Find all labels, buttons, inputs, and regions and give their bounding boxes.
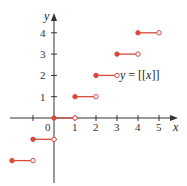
open-point-icon bbox=[52, 137, 56, 141]
open-point-icon bbox=[94, 95, 98, 99]
y-tick-label: 3 bbox=[40, 48, 46, 60]
origin-label: 0 bbox=[45, 121, 51, 133]
closed-point-icon bbox=[136, 31, 140, 35]
open-point-icon bbox=[157, 31, 161, 35]
x-tick-label: 4 bbox=[135, 121, 141, 133]
step-segments bbox=[10, 31, 161, 163]
step-function-graph: 12345 1234 x y 0 y = [[x]] bbox=[0, 0, 187, 186]
function-label: y = [[x]] bbox=[119, 68, 159, 82]
open-point-icon bbox=[115, 73, 119, 77]
closed-point-icon bbox=[31, 137, 35, 141]
open-point-icon bbox=[73, 116, 77, 120]
x-tick-label: 2 bbox=[93, 121, 99, 133]
closed-point-icon bbox=[52, 116, 56, 120]
y-tick-label: 2 bbox=[40, 69, 46, 81]
x-tick-label: 3 bbox=[114, 121, 120, 133]
y-tick-label: 1 bbox=[40, 91, 46, 103]
x-tick-label: 5 bbox=[156, 121, 162, 133]
y-axis-arrow-icon bbox=[51, 13, 57, 21]
open-point-icon bbox=[31, 158, 35, 162]
closed-point-icon bbox=[10, 158, 14, 162]
open-point-icon bbox=[136, 52, 140, 56]
closed-point-icon bbox=[94, 73, 98, 77]
closed-point-icon bbox=[73, 95, 77, 99]
y-tick-label: 4 bbox=[40, 27, 46, 39]
closed-point-icon bbox=[115, 52, 119, 56]
y-axis-label: y bbox=[43, 9, 50, 23]
x-axis-label: x bbox=[172, 120, 179, 134]
x-tick-label: 1 bbox=[72, 121, 78, 133]
